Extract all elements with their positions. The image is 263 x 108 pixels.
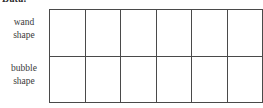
grid-cell[interactable] <box>156 56 192 103</box>
grid-cell[interactable] <box>85 10 121 57</box>
data-table-worksheet: wand shape bubble shape <box>0 0 263 108</box>
grid-cell[interactable] <box>192 56 228 103</box>
grid-cell[interactable] <box>50 10 86 57</box>
grid-cell[interactable] <box>121 56 157 103</box>
row-label-wand-shape-line1: wand <box>0 16 48 29</box>
data-entry-grid <box>49 9 263 103</box>
grid-cell[interactable] <box>156 10 192 57</box>
grid-cell[interactable] <box>227 56 263 103</box>
data-entry-grid-body <box>50 10 263 103</box>
row-label-wand-shape: wand shape <box>0 16 48 41</box>
row-label-bubble-shape: bubble shape <box>0 62 48 87</box>
grid-cell[interactable] <box>192 10 228 57</box>
row-label-bubble-shape-line2: shape <box>0 75 48 88</box>
grid-cell[interactable] <box>85 56 121 103</box>
table-row <box>50 56 263 103</box>
row-label-wand-shape-line2: shape <box>0 29 48 42</box>
grid-cell[interactable] <box>50 56 86 103</box>
grid-cell[interactable] <box>121 10 157 57</box>
row-label-bubble-shape-line1: bubble <box>0 62 48 75</box>
table-row <box>50 10 263 57</box>
grid-cell[interactable] <box>227 10 263 57</box>
